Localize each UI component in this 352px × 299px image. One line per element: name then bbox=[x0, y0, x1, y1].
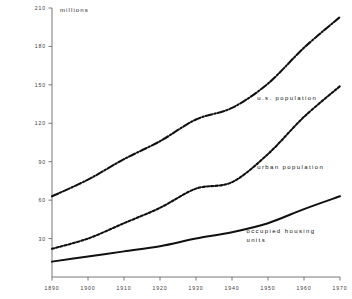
x-tick-label: 1900 bbox=[80, 285, 95, 291]
y-tick-label: 60 bbox=[38, 197, 46, 203]
y-axis: 306090120150180210 bbox=[35, 5, 52, 277]
x-tick-label: 1960 bbox=[296, 285, 311, 291]
x-tick-label: 1910 bbox=[116, 285, 131, 291]
y-axis-ticks: 306090120150180210 bbox=[35, 5, 52, 242]
series-layer bbox=[52, 17, 340, 262]
x-tick-label: 1970 bbox=[332, 285, 347, 291]
y-tick-label: 120 bbox=[35, 120, 46, 126]
chart-container: 306090120150180210 189019001910192019301… bbox=[0, 0, 352, 299]
series-annotation: units bbox=[246, 237, 266, 243]
series-annotation: u.s. population bbox=[257, 95, 317, 101]
x-axis-ticks: 189019001910192019301940195019601970 bbox=[44, 277, 347, 291]
series-annotations: u.s. populationurban populationoccupied … bbox=[246, 95, 324, 243]
y-tick-label: 30 bbox=[38, 236, 46, 242]
x-tick-label: 1890 bbox=[44, 285, 59, 291]
series-annotation: occupied housing bbox=[246, 228, 315, 234]
y-tick-label: 90 bbox=[38, 159, 46, 165]
x-tick-label: 1930 bbox=[188, 285, 203, 291]
x-tick-label: 1950 bbox=[260, 285, 275, 291]
series-annotation: urban population bbox=[257, 164, 324, 170]
x-tick-label: 1920 bbox=[152, 285, 167, 291]
y-tick-label: 180 bbox=[35, 43, 46, 49]
y-axis-unit-label: millions bbox=[60, 7, 89, 13]
y-tick-label: 210 bbox=[35, 5, 46, 11]
x-axis: 189019001910192019301940195019601970 bbox=[44, 277, 347, 291]
y-tick-label: 150 bbox=[35, 82, 46, 88]
x-tick-label: 1940 bbox=[224, 285, 239, 291]
population-line-chart: 306090120150180210 189019001910192019301… bbox=[0, 0, 352, 299]
